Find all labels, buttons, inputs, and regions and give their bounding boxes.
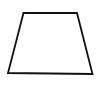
diagram-canvas	[0, 0, 110, 90]
trapezoid-shape	[8, 13, 93, 74]
